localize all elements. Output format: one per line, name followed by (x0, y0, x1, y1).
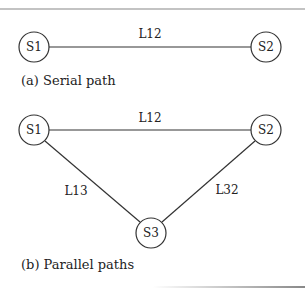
network-path-diagram: S1 S2 L12 S1 S2 S3 L12 L13 L32 (a) Seria… (0, 0, 305, 289)
node-label: S2 (258, 123, 274, 137)
node-label: S1 (26, 123, 42, 137)
parallel-caption: (b) Parallel paths (21, 257, 134, 272)
node-label: S3 (143, 226, 159, 240)
link-label: L13 (64, 184, 87, 198)
node-label: S2 (258, 40, 274, 54)
link-label: L32 (215, 183, 238, 197)
link-label: L12 (138, 111, 161, 125)
bottom-rule (0, 286, 305, 288)
link-l32 (162, 141, 255, 222)
link-l13 (45, 141, 140, 222)
diagram-canvas: S1 S2 L12 S1 S2 S3 L12 L13 L32 (0, 0, 305, 289)
node-label: S1 (26, 40, 42, 54)
link-label: L12 (138, 27, 161, 41)
serial-caption: (a) Serial path (21, 73, 116, 88)
